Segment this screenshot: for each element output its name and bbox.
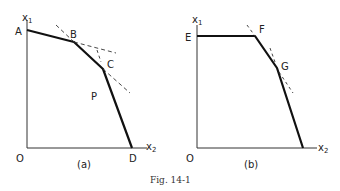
- tangent-line-f-dashed: [247, 25, 255, 36]
- panel-label-b: (b): [244, 159, 258, 170]
- tangent-line-c-upper-dashed: [97, 50, 101, 62]
- origin-label: O: [186, 153, 194, 164]
- vertex-label-c: C: [107, 59, 114, 70]
- vertex-label-a: A: [15, 26, 22, 37]
- vertex-label-e: E: [185, 32, 191, 43]
- x-axis-label: x2: [146, 141, 156, 154]
- feasible-boundary: [197, 36, 303, 148]
- vertex-label-d: D: [129, 153, 137, 164]
- feasible-boundary: [27, 30, 132, 148]
- figure-caption: Fig. 14-1: [150, 175, 191, 185]
- panel-a: x1 x2 O A B C D P (a): [15, 12, 156, 170]
- origin-label: O: [16, 153, 24, 164]
- x-axis-label: x2: [318, 142, 328, 155]
- vertex-label-f: F: [259, 24, 265, 35]
- vertex-label-b: B: [70, 29, 77, 40]
- region-label-p: P: [91, 91, 97, 102]
- figure-canvas: x1 x2 O A B C D P (a) x1 x2 O E F G (b) …: [0, 0, 340, 191]
- y-axis-label: x1: [192, 14, 202, 27]
- y-axis-label: x1: [22, 12, 32, 25]
- vertex-label-g: G: [281, 61, 289, 72]
- panel-b: x1 x2 O E F G (b): [185, 14, 328, 170]
- panel-label-a: (a): [77, 159, 91, 170]
